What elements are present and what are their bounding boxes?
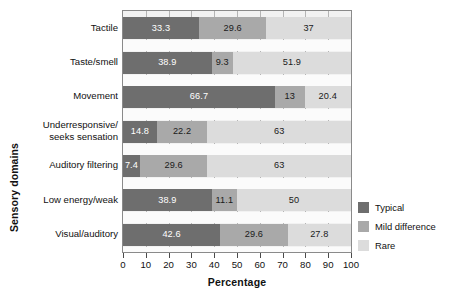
- background-band: [123, 144, 351, 155]
- category-label-line: Taste/smell: [22, 56, 118, 67]
- legend-label: Typical: [375, 202, 404, 213]
- x-axis-tick: [191, 253, 192, 258]
- stacked-bar[interactable]: 33.329.637: [123, 17, 351, 39]
- category-label-line: seeks sensation: [22, 131, 118, 142]
- x-axis-tick: [146, 253, 147, 258]
- background-band: [123, 212, 351, 223]
- bar-segment-value: 63: [274, 161, 284, 170]
- background-band: [123, 40, 351, 51]
- x-axis-tick: [351, 253, 352, 258]
- category-label-line: Low energy/weak: [22, 194, 118, 205]
- background-band: [123, 75, 351, 86]
- bar-segment[interactable]: 38.9: [123, 189, 212, 211]
- x-axis-tick: [237, 253, 238, 258]
- bar-segment[interactable]: 20.4: [305, 86, 351, 108]
- bar-segment[interactable]: 14.8: [123, 121, 157, 143]
- category-label-line: Movement: [22, 90, 118, 101]
- legend-swatch-icon: [358, 221, 369, 232]
- x-axis-tick-label: 70: [277, 259, 288, 270]
- bar-segment-value: 29.6: [245, 230, 263, 239]
- bar-segment[interactable]: 7.4: [123, 155, 140, 177]
- stacked-bar[interactable]: 14.822.263: [123, 121, 351, 143]
- bar-segment-value: 37: [303, 24, 313, 33]
- legend-label: Mild difference: [375, 221, 436, 232]
- x-axis-tick-label: 30: [186, 259, 197, 270]
- category-label: Underresponsive/seeks sensation: [22, 119, 118, 142]
- x-axis-tick-label: 90: [323, 259, 334, 270]
- bar-segment[interactable]: 29.6: [220, 224, 287, 246]
- x-axis-tick-label: 20: [163, 259, 174, 270]
- bar-segment[interactable]: 33.3: [123, 17, 199, 39]
- bar-segment[interactable]: 66.7: [123, 86, 275, 108]
- bar-segment[interactable]: 51.9: [233, 52, 351, 74]
- bar-segment-value: 13: [285, 92, 295, 101]
- bar-segment-value: 11.1: [216, 196, 234, 205]
- y-axis-title: Sensory domains: [8, 143, 20, 232]
- legend-item-typical[interactable]: Typical: [358, 198, 448, 217]
- stacked-bar[interactable]: 38.911.150: [123, 189, 351, 211]
- bar-segment[interactable]: 22.2: [157, 121, 208, 143]
- bar-segment[interactable]: 13: [275, 86, 305, 108]
- x-axis-tick-label: 0: [120, 259, 125, 270]
- bar-segment-value: 7.4: [125, 161, 138, 170]
- bar-segment[interactable]: 63: [207, 121, 351, 143]
- category-label: Tactile: [22, 22, 118, 33]
- category-label: Taste/smell: [22, 56, 118, 67]
- bar-segment[interactable]: 27.8: [288, 224, 351, 246]
- bar-segment-value: 14.8: [131, 127, 149, 136]
- bar-segment-value: 42.6: [162, 230, 180, 239]
- background-band: [123, 178, 351, 189]
- stacked-bar[interactable]: 38.99.351.9: [123, 52, 351, 74]
- bar-segment-value: 29.6: [164, 161, 182, 170]
- plot-area: 33.329.63738.99.351.966.71320.414.822.26…: [122, 10, 352, 253]
- category-label: Low energy/weak: [22, 194, 118, 205]
- legend-swatch-icon: [358, 240, 369, 251]
- x-axis-tick: [214, 253, 215, 258]
- background-band: [123, 109, 351, 120]
- x-axis-title: Percentage: [122, 276, 352, 288]
- stacked-bar[interactable]: 42.629.627.8: [123, 224, 351, 246]
- bar-segment[interactable]: 11.1: [212, 189, 237, 211]
- x-axis-tick: [169, 253, 170, 258]
- bar-segment-value: 50: [289, 196, 299, 205]
- category-label: Visual/auditory: [22, 228, 118, 239]
- x-axis-tick-label: 40: [209, 259, 220, 270]
- bar-segment[interactable]: 29.6: [140, 155, 207, 177]
- category-label: Movement: [22, 90, 118, 101]
- x-axis-tick: [305, 253, 306, 258]
- x-axis-tick: [283, 253, 284, 258]
- background-band: [123, 247, 351, 252]
- bar-segment[interactable]: 50: [237, 189, 351, 211]
- bar-segment[interactable]: 29.6: [199, 17, 266, 39]
- legend-item-mild[interactable]: Mild difference: [358, 217, 448, 236]
- bar-segment[interactable]: 42.6: [123, 224, 220, 246]
- category-label-list: TactileTaste/smellMovementUnderresponsiv…: [22, 10, 118, 253]
- x-axis-tick: [328, 253, 329, 258]
- x-axis-tick-label: 100: [343, 259, 359, 270]
- plot-inner: 33.329.63738.99.351.966.71320.414.822.26…: [123, 11, 351, 252]
- bar-segment[interactable]: 63: [207, 155, 351, 177]
- x-axis-tick-label: 60: [254, 259, 265, 270]
- bar-segment[interactable]: 38.9: [123, 52, 212, 74]
- bar-segment-value: 27.8: [310, 230, 328, 239]
- x-axis-tick-label: 50: [232, 259, 243, 270]
- bar-segment-value: 33.3: [152, 24, 170, 33]
- bar-segment-value: 38.9: [158, 58, 176, 67]
- x-axis-tick-labels: 0102030405060708090100: [122, 259, 352, 273]
- bar-segment-value: 22.2: [173, 127, 191, 136]
- legend-item-rare[interactable]: Rare: [358, 236, 448, 255]
- category-label-line: Tactile: [22, 22, 118, 33]
- legend-swatch-icon: [358, 202, 369, 213]
- x-axis-tick-label: 80: [300, 259, 311, 270]
- x-axis-tick: [260, 253, 261, 258]
- stacked-bar[interactable]: 66.71320.4: [123, 86, 351, 108]
- bar-segment-value: 63: [274, 127, 284, 136]
- x-axis-tick: [123, 253, 124, 258]
- category-label-line: Visual/auditory: [22, 228, 118, 239]
- bar-segment[interactable]: 9.3: [212, 52, 233, 74]
- x-axis-tick-label: 10: [140, 259, 151, 270]
- bar-segment[interactable]: 37: [266, 17, 350, 39]
- bar-segment-value: 51.9: [283, 58, 301, 67]
- legend-label: Rare: [375, 240, 395, 251]
- stacked-bar[interactable]: 7.429.663: [123, 155, 351, 177]
